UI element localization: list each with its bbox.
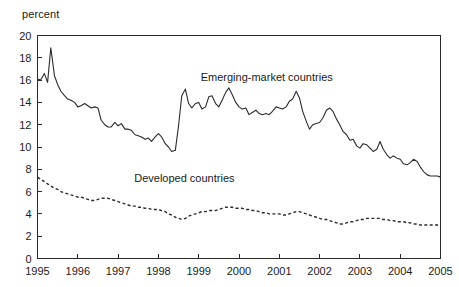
y-axis-tick-marks bbox=[38, 36, 43, 259]
series-label-emerging-market-countries: Emerging-market countries bbox=[201, 71, 334, 83]
series-line-emerging-market-countries bbox=[38, 48, 441, 177]
y-tick-label: 2 bbox=[25, 230, 31, 242]
x-tick-label: 1997 bbox=[106, 265, 130, 277]
x-tick-label: 1999 bbox=[186, 265, 210, 277]
y-tick-label: 18 bbox=[19, 52, 31, 64]
x-tick-label: 2002 bbox=[307, 265, 331, 277]
x-tick-label: 2005 bbox=[428, 265, 452, 277]
x-tick-label: 1998 bbox=[146, 265, 170, 277]
plot-axis-frame bbox=[38, 36, 441, 259]
y-tick-label: 8 bbox=[25, 163, 31, 175]
x-tick-label: 1996 bbox=[66, 265, 90, 277]
y-axis-tick-labels: 02468101214161820 bbox=[19, 30, 31, 265]
x-tick-label: 2003 bbox=[348, 265, 372, 277]
y-tick-label: 10 bbox=[19, 141, 31, 153]
y-tick-label: 4 bbox=[25, 208, 31, 220]
x-axis-tick-labels: 1995199619971998199920002001200220032004… bbox=[25, 265, 452, 277]
y-tick-label: 16 bbox=[19, 74, 31, 86]
x-tick-label: 2001 bbox=[267, 265, 291, 277]
y-tick-label: 0 bbox=[25, 253, 31, 265]
x-tick-label: 2000 bbox=[227, 265, 251, 277]
y-tick-label: 14 bbox=[19, 96, 31, 108]
x-tick-label: 2004 bbox=[388, 265, 412, 277]
y-tick-label: 20 bbox=[19, 30, 31, 42]
line-chart: 02468101214161820 1995199619971998199920… bbox=[0, 0, 459, 287]
x-axis-tick-marks bbox=[38, 254, 441, 259]
series-label-developed-countries: Developed countries bbox=[134, 172, 235, 184]
chart-container: percent 02468101214161820 19951996199719… bbox=[0, 0, 459, 287]
y-tick-label: 12 bbox=[19, 119, 31, 131]
y-tick-label: 6 bbox=[25, 186, 31, 198]
x-tick-label: 1995 bbox=[25, 265, 49, 277]
series-line-developed-countries bbox=[38, 177, 441, 225]
